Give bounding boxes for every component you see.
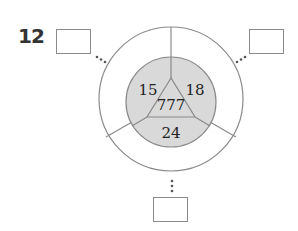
circle-diagram: 15 18 777 24 [0,0,298,231]
value-top-left: 15 [138,81,157,99]
value-bottom: 24 [161,124,180,142]
value-center: 777 [157,96,186,114]
value-top-right: 18 [185,81,204,99]
